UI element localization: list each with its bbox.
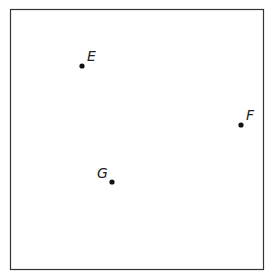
point-g: G: [97, 165, 115, 185]
point-g-label: G: [97, 165, 108, 181]
point-e-dot: [79, 63, 84, 68]
point-e: E: [79, 48, 96, 69]
point-f-label: F: [246, 107, 255, 123]
point-f: F: [238, 107, 255, 128]
diagram-canvas: E F G: [0, 0, 272, 276]
point-g-dot: [109, 179, 114, 184]
point-e-label: E: [87, 48, 96, 64]
point-f-dot: [238, 122, 243, 127]
frame-border: [11, 10, 264, 270]
